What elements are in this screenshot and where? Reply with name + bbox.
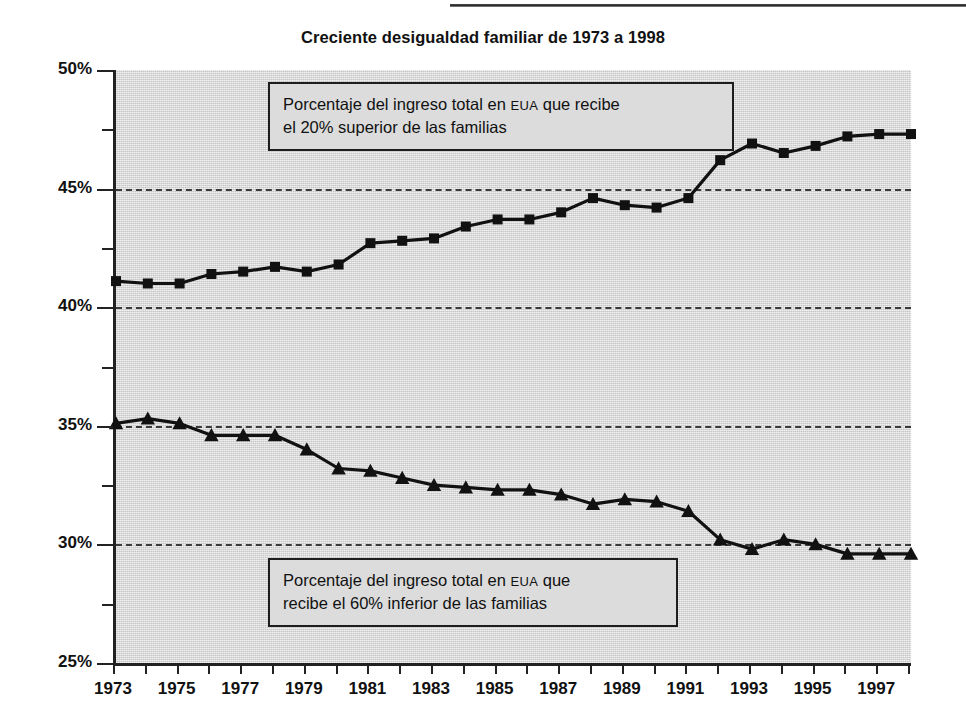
data-point-square-1992 [715, 155, 725, 165]
x-axis-tick-1984 [463, 663, 465, 674]
data-point-square-1997 [874, 129, 884, 139]
x-axis-label-1981: 1981 [348, 679, 386, 699]
x-axis-tick-1995 [813, 663, 815, 674]
annotation-bottom-line1-smallcaps: EUA [510, 574, 538, 589]
x-axis-tick-1988 [590, 663, 592, 674]
y-axis-tick-35 [97, 426, 113, 428]
x-axis-label-1973: 1973 [94, 679, 132, 699]
x-axis-tick-1996 [844, 663, 846, 674]
y-axis-tick-40 [97, 307, 113, 309]
x-axis-tick-1981 [367, 663, 369, 674]
y-axis-label-25: 25% [22, 652, 92, 672]
x-axis-label-1989: 1989 [603, 679, 641, 699]
data-point-square-1990 [652, 203, 662, 213]
annotation-top-line1-after: que recibe [538, 95, 620, 113]
data-point-square-1989 [620, 200, 630, 210]
y-axis-label-45: 45% [22, 178, 92, 198]
data-point-square-1994 [779, 148, 789, 158]
x-axis-tick-1978 [272, 663, 274, 674]
x-axis-label-1985: 1985 [476, 679, 514, 699]
data-point-square-1975 [175, 278, 185, 288]
data-point-square-1981 [365, 238, 375, 248]
data-point-square-1986 [524, 214, 534, 224]
data-point-square-1979 [302, 267, 312, 277]
y-axis-minor-tick-37.5 [102, 367, 113, 369]
data-point-square-1998 [906, 129, 916, 139]
data-point-square-1976 [206, 269, 216, 279]
series-line-1 [116, 419, 911, 554]
x-axis-tick-1992 [717, 663, 719, 674]
chart-page: Creciente desigualdad familiar de 1973 a… [0, 0, 966, 723]
x-axis-tick-1983 [431, 663, 433, 674]
y-axis-tick-45 [97, 189, 113, 191]
x-axis-tick-1993 [749, 663, 751, 674]
annotation-top-line1-before: Porcentaje del ingreso total en [283, 95, 510, 113]
x-axis-tick-1975 [177, 663, 179, 674]
data-point-square-1987 [556, 207, 566, 217]
data-point-square-1973 [111, 276, 121, 286]
y-axis-minor-tick-32.5 [102, 485, 113, 487]
data-point-square-1983 [429, 233, 439, 243]
annotation-bottom-line1-before: Porcentaje del ingreso total en [283, 571, 510, 589]
annotation-top-line2: el 20% superior de las familias [283, 118, 507, 136]
y-axis-label-35: 35% [22, 415, 92, 435]
y-axis-label-50: 50% [22, 59, 92, 79]
data-point-square-1980 [334, 260, 344, 270]
data-point-square-1996 [842, 131, 852, 141]
data-point-square-1984 [461, 222, 471, 232]
x-axis-label-1991: 1991 [666, 679, 704, 699]
x-axis-tick-1977 [240, 663, 242, 674]
x-axis-label-1993: 1993 [730, 679, 768, 699]
x-axis-label-1995: 1995 [794, 679, 832, 699]
data-point-square-1977 [238, 267, 248, 277]
y-axis-tick-30 [97, 544, 113, 546]
y-axis-minor-tick-47.5 [102, 129, 113, 131]
x-axis-label-1975: 1975 [158, 679, 196, 699]
x-axis-tick-1979 [304, 663, 306, 674]
data-point-square-1978 [270, 262, 280, 272]
x-axis-tick-1989 [622, 663, 624, 674]
data-point-square-1993 [747, 139, 757, 149]
x-axis-label-1997: 1997 [857, 679, 895, 699]
y-axis-minor-tick-27.5 [102, 604, 113, 606]
annotation-top-quintile: Porcentaje del ingreso total en EUA que … [268, 82, 734, 151]
x-axis-tick-1985 [495, 663, 497, 674]
x-axis-tick-1990 [654, 663, 656, 674]
x-axis-label-1987: 1987 [539, 679, 577, 699]
annotation-top-line1-smallcaps: EUA [510, 98, 538, 113]
series-line-0 [116, 134, 911, 283]
x-axis-tick-1998 [908, 663, 910, 674]
x-axis-tick-1997 [876, 663, 878, 674]
data-point-square-1982 [397, 236, 407, 246]
x-axis-tick-1986 [526, 663, 528, 674]
x-axis-tick-1973 [113, 663, 115, 674]
x-axis-tick-1994 [781, 663, 783, 674]
x-axis-tick-1974 [145, 663, 147, 674]
data-point-square-1991 [683, 193, 693, 203]
annotation-bottom-line2: recibe el 60% inferior de las familias [283, 594, 547, 612]
data-point-square-1995 [811, 141, 821, 151]
data-point-square-1974 [143, 278, 153, 288]
x-axis-tick-1982 [399, 663, 401, 674]
page-title: Creciente desigualdad familiar de 1973 a… [0, 28, 966, 47]
annotation-bottom-line1-after: que [538, 571, 570, 589]
y-axis-tick-25 [97, 663, 113, 665]
data-point-square-1988 [588, 193, 598, 203]
x-axis-tick-1976 [208, 663, 210, 674]
x-axis-label-1979: 1979 [285, 679, 323, 699]
x-axis-tick-1991 [685, 663, 687, 674]
x-axis-tick-1980 [336, 663, 338, 674]
x-axis-tick-1987 [558, 663, 560, 674]
data-point-square-1985 [493, 214, 503, 224]
y-axis-tick-50 [97, 70, 113, 72]
top-divider-rule [450, 4, 966, 7]
y-axis-label-30: 30% [22, 533, 92, 553]
y-axis-minor-tick-42.5 [102, 248, 113, 250]
x-axis-label-1977: 1977 [221, 679, 259, 699]
y-axis-label-40: 40% [22, 296, 92, 316]
annotation-bottom-quintiles: Porcentaje del ingreso total en EUA que … [268, 558, 678, 627]
x-axis-label-1983: 1983 [412, 679, 450, 699]
